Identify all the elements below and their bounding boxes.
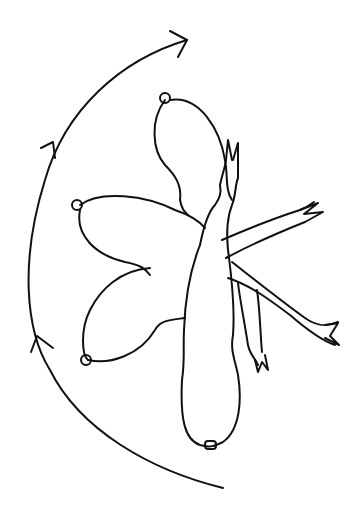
diagram-canvas: Line drawing of four limb positions (bot… xyxy=(0,0,361,521)
appendage-right-upper xyxy=(222,202,323,258)
central-stalk xyxy=(200,140,238,250)
limb-lower-left xyxy=(81,268,185,365)
rotation-arc xyxy=(29,31,223,488)
limb-bottom xyxy=(182,245,240,449)
arrowhead-lower-icon xyxy=(31,336,53,352)
claw-right-upper-icon xyxy=(300,203,323,222)
claw-top-icon xyxy=(226,140,238,178)
appendage-right-lower xyxy=(228,262,339,345)
limb-left xyxy=(72,196,205,275)
limb-rotation-diagram xyxy=(0,0,361,521)
